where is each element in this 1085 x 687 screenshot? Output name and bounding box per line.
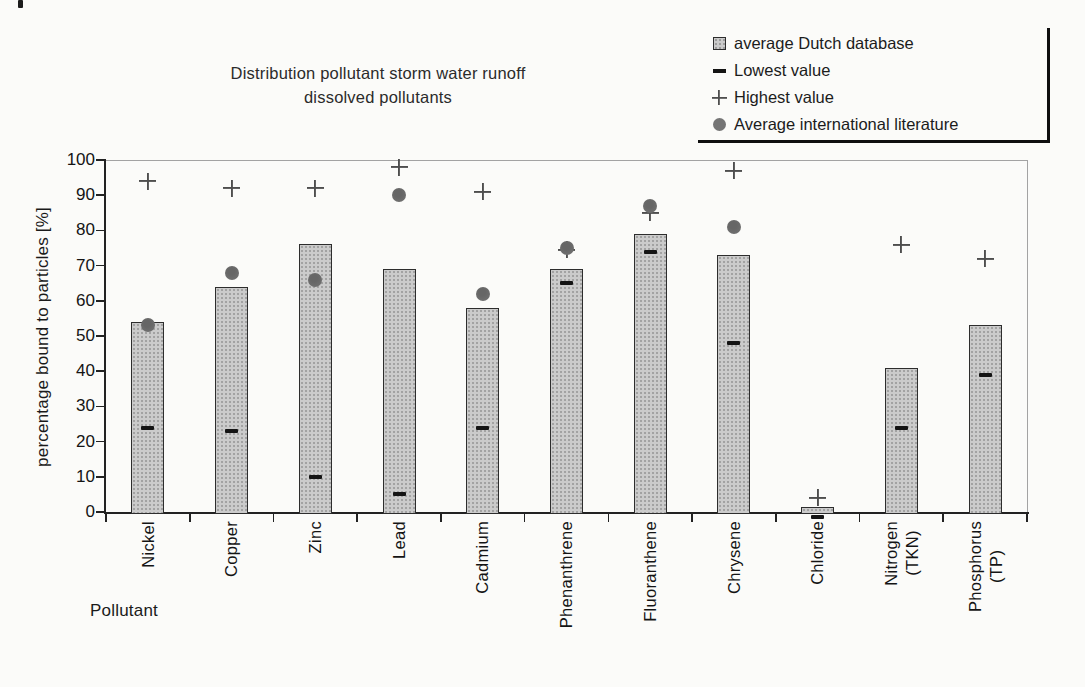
bar-phosphorus-tp: [969, 325, 1002, 514]
lowest-marker-chloride: [811, 515, 824, 519]
y-tick-10: [96, 476, 104, 478]
category-label-text: Chloride: [807, 521, 828, 585]
y-tick-90: [96, 194, 104, 196]
y-tick-30: [96, 406, 104, 408]
plot-frame-right: [1027, 160, 1028, 512]
category-label-phosphorus-tp: Phosphorus (TP): [925, 521, 1045, 671]
intl-average-marker-copper: [225, 266, 239, 280]
category-label-text: Cadmium: [472, 521, 493, 594]
bar-chloride: [801, 507, 834, 514]
bar-copper: [215, 287, 248, 514]
lowest-marker-zinc: [309, 475, 322, 479]
bar-cadmium: [466, 308, 499, 514]
y-tick-20: [96, 441, 104, 443]
highest-marker-cadmium: [474, 183, 491, 200]
lowest-marker-chrysene: [727, 341, 740, 345]
category-label-text: Nitrogen (TKN): [881, 521, 922, 586]
y-tick-40: [96, 370, 104, 372]
highest-marker-copper: [223, 180, 240, 197]
category-label-text: Fluoranthene: [640, 521, 661, 622]
intl-average-marker-chrysene: [727, 220, 741, 234]
bar-chrysene: [717, 255, 750, 514]
bar-phenanthrene: [550, 269, 583, 514]
category-label-text: Chrysene: [724, 521, 745, 594]
highest-marker-phosphorus-tp: [977, 250, 994, 267]
intl-average-marker-cadmium: [476, 287, 490, 301]
category-label-text: Phenanthrene: [556, 521, 577, 628]
y-axis-title-text: percentage bound to particles [%]: [33, 207, 53, 467]
highest-marker-chloride: [809, 489, 826, 506]
y-tick-0: [96, 511, 104, 513]
highest-marker-chrysene: [725, 162, 742, 179]
plot-frame-top: [106, 160, 1027, 161]
intl-average-marker-zinc: [308, 273, 322, 287]
x-axis-title: Pollutant: [90, 601, 158, 621]
lowest-marker-nickel: [141, 426, 154, 430]
y-tick-60: [96, 300, 104, 302]
intl-average-marker-fluoranthene: [643, 199, 657, 213]
lowest-marker-nitrogen-tkn: [895, 426, 908, 430]
bar-nitrogen-tkn: [885, 368, 918, 514]
highest-marker-nickel: [139, 173, 156, 190]
bar-nickel: [131, 322, 164, 514]
lowest-marker-phosphorus-tp: [979, 373, 992, 377]
category-label-text: Zinc: [305, 521, 326, 553]
category-label-text: Nickel: [138, 521, 159, 568]
y-axis-title: percentage bound to particles [%]: [24, 160, 62, 513]
lowest-marker-phenanthrene: [560, 281, 573, 285]
highest-marker-lead: [391, 159, 408, 176]
y-tick-50: [96, 335, 104, 337]
chart-plot-area: 0102030405060708090100NickelCopperZincLe…: [0, 0, 1085, 687]
y-tick-70: [96, 265, 104, 267]
bar-lead: [383, 269, 416, 514]
y-tick-100: [96, 159, 104, 161]
highest-marker-nitrogen-tkn: [893, 236, 910, 253]
category-label-text: Phosphorus (TP): [965, 521, 1006, 612]
lowest-marker-fluoranthene: [644, 250, 657, 254]
intl-average-marker-lead: [392, 188, 406, 202]
category-label-text: Lead: [389, 521, 410, 559]
highest-marker-zinc: [307, 180, 324, 197]
y-tick-80: [96, 230, 104, 232]
bar-fluoranthene: [634, 234, 667, 514]
lowest-marker-lead: [393, 492, 406, 496]
intl-average-marker-phenanthrene: [560, 241, 574, 255]
category-label-text: Copper: [221, 521, 242, 577]
lowest-marker-cadmium: [476, 426, 489, 430]
lowest-marker-copper: [225, 429, 238, 433]
